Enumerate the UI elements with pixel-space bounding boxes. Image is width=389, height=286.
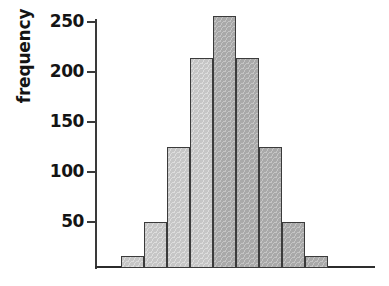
histogram-bar: [190, 58, 213, 268]
histogram-bar: [121, 256, 144, 268]
histogram-bar: [259, 147, 282, 268]
histogram-bar: [144, 222, 167, 268]
histogram-bar: [282, 222, 305, 268]
plot-area: [95, 0, 380, 268]
y-tick-label-150: 150: [18, 111, 84, 131]
histogram-bar: [236, 58, 259, 268]
histogram-bar: [305, 256, 328, 268]
histogram-chart: frequency 250 200 150 100 50: [0, 0, 389, 286]
histogram-bar: [328, 266, 351, 269]
histogram-bar: [167, 147, 190, 268]
y-axis-tick-labels: 250 200 150 100 50: [0, 0, 84, 286]
y-tick-label-100: 100: [18, 161, 84, 181]
y-tick-label-250: 250: [18, 11, 84, 31]
y-tick-label-200: 200: [18, 61, 84, 81]
y-tick-label-50: 50: [18, 211, 84, 231]
histogram-bar: [213, 16, 236, 268]
histogram-bar: [98, 266, 121, 269]
